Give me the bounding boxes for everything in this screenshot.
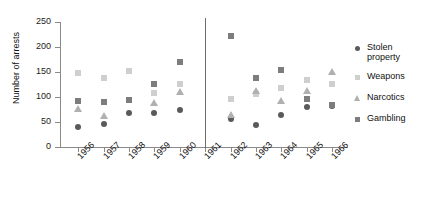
legend-item-stolen-property[interactable]: Stolen property	[352, 42, 425, 62]
data-point	[277, 97, 285, 104]
data-point	[151, 110, 157, 116]
data-point	[126, 68, 132, 74]
data-point	[75, 98, 81, 104]
data-point	[227, 111, 235, 118]
data-point	[101, 121, 107, 127]
data-point	[304, 104, 310, 110]
data-point	[151, 90, 157, 96]
legend-label: Weapons	[367, 71, 405, 81]
data-point	[100, 112, 108, 119]
data-point	[278, 112, 284, 118]
data-point	[252, 87, 260, 94]
legend-item-weapons[interactable]: Weapons	[352, 71, 425, 83]
chart-figure: Number of arrests 050100150200250 195619…	[0, 0, 425, 211]
data-point	[304, 96, 310, 102]
data-point	[228, 96, 234, 102]
data-point	[329, 81, 335, 87]
data-point	[304, 77, 310, 83]
data-point	[177, 107, 183, 113]
data-point	[253, 122, 259, 128]
data-point	[74, 105, 82, 112]
legend-label: Gambling	[367, 113, 406, 123]
chart-legend: Stolen propertyWeaponsNarcoticsGambling	[352, 42, 425, 134]
triangle-marker-icon	[352, 92, 362, 104]
data-point	[253, 75, 259, 81]
data-point	[228, 33, 234, 39]
legend-label: Narcotics	[367, 92, 405, 102]
data-point	[75, 70, 81, 76]
data-point	[75, 124, 81, 130]
data-point	[177, 59, 183, 65]
legend-item-gambling[interactable]: Gambling	[352, 113, 425, 125]
data-point	[303, 87, 311, 94]
data-point	[278, 85, 284, 91]
data-point	[278, 67, 284, 73]
circle-marker-icon	[352, 42, 362, 54]
data-point	[177, 81, 183, 87]
legend-label: Stolen property	[367, 42, 425, 62]
square-marker-icon	[352, 113, 362, 125]
square-marker-icon	[352, 71, 362, 83]
data-point	[101, 75, 107, 81]
data-point	[150, 99, 158, 106]
legend-item-narcotics[interactable]: Narcotics	[352, 92, 425, 104]
data-point	[126, 97, 132, 103]
data-point	[329, 102, 335, 108]
data-point	[176, 88, 184, 95]
data-point	[101, 99, 107, 105]
data-point	[151, 81, 157, 87]
data-point	[126, 110, 132, 116]
data-point	[328, 68, 336, 75]
